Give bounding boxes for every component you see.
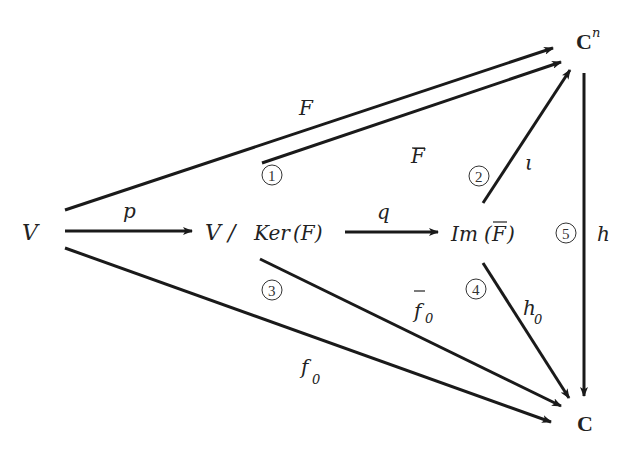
commutative-diagram: V V / Ker (F) Im ( F ) C n C p q F F ι h… — [0, 0, 627, 451]
region-marker-5: 5 — [556, 223, 576, 243]
label-p: p — [123, 199, 136, 223]
label-F: F — [298, 96, 314, 120]
node-im-label: Im — [450, 222, 478, 246]
region-marker-1: 1 — [262, 165, 282, 185]
label-q: q — [377, 200, 390, 224]
label-iota: ι — [525, 151, 533, 175]
svg-text:3: 3 — [268, 283, 276, 299]
node-im-F: F — [491, 222, 507, 246]
node-Cn: C — [576, 29, 592, 54]
node-V-slash: V / — [205, 220, 238, 245]
label-f0: f — [299, 355, 312, 379]
label-h0-subscript: 0 — [534, 312, 542, 327]
label-f0-bar-subscript: 0 — [425, 311, 433, 326]
region-marker-4: 4 — [466, 279, 486, 299]
node-V: V — [22, 220, 40, 245]
svg-text:2: 2 — [475, 169, 483, 185]
node-im-close: ) — [506, 222, 515, 246]
label-h: h — [597, 222, 610, 246]
arrow-iota — [483, 70, 570, 203]
svg-text:1: 1 — [268, 168, 276, 184]
region-marker-2: 2 — [469, 166, 489, 186]
svg-text:5: 5 — [562, 226, 570, 242]
label-f0-bar: f — [412, 299, 425, 323]
arrow-h0 — [483, 263, 569, 398]
node-C: C — [577, 411, 593, 436]
arrow-f0 — [65, 248, 551, 422]
label-f0-subscript: 0 — [312, 372, 320, 387]
node-Cn-superscript: n — [592, 25, 600, 40]
node-ker-label: Ker — [253, 221, 291, 245]
svg-text:4: 4 — [472, 282, 480, 298]
region-marker-3: 3 — [262, 280, 282, 300]
node-ker-arg: (F) — [293, 221, 322, 245]
